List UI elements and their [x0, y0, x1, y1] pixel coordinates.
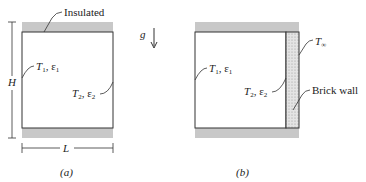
brick-wall-label: Brick wall	[312, 84, 358, 96]
caption-a: (a)	[60, 166, 73, 179]
top-insulation-b	[195, 22, 299, 32]
width-label: L	[62, 142, 69, 154]
caption-b: (b)	[236, 166, 249, 179]
bottom-insulation	[22, 128, 113, 138]
figure-b: T∞ Brick wall T1, ε1 T2, ε2 (b)	[195, 22, 358, 179]
top-insulation	[22, 22, 113, 32]
tinf-leader	[299, 40, 313, 55]
cavity	[22, 32, 113, 128]
enclosure-diagram: Insulated H L T1, ε1 T2, ε2 (a) g T∞	[0, 0, 366, 182]
height-label: H	[7, 76, 17, 88]
gravity-label: g	[140, 28, 146, 40]
bottom-insulation-b	[195, 128, 299, 138]
brick-wall	[286, 32, 299, 128]
tinf-label: T∞	[315, 35, 326, 49]
gravity-indicator: g	[140, 28, 157, 48]
insulated-label: Insulated	[64, 6, 105, 18]
figure-a: Insulated H L T1, ε1 T2, ε2 (a)	[6, 6, 113, 179]
cavity-b	[195, 32, 286, 128]
